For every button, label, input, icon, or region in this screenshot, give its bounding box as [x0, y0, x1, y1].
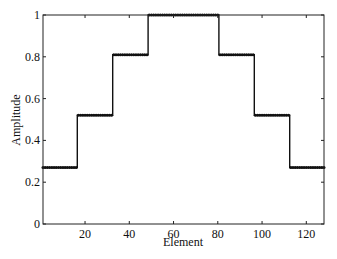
axes: 2040608010012000.20.40.60.81 [25, 8, 324, 241]
x-tick-label: 80 [212, 227, 224, 241]
y-tick-label: 0 [34, 217, 40, 231]
data-point-marker [287, 114, 290, 117]
x-tick-label: 40 [123, 227, 135, 241]
data-point-marker [110, 114, 113, 117]
y-tick-label: 1 [34, 8, 40, 22]
y-axis-label: Amplitude [9, 94, 23, 145]
y-tick-label: 0.8 [25, 50, 40, 64]
data-point-marker [75, 166, 78, 169]
plot-area [42, 14, 326, 170]
x-tick-label: 20 [79, 227, 91, 241]
plot-frame [43, 15, 324, 224]
data-point-marker [145, 53, 148, 56]
x-tick-label: 100 [253, 227, 271, 241]
data-point-marker [252, 53, 255, 56]
amplitude-step-line [43, 15, 324, 168]
y-tick-label: 0.2 [25, 175, 40, 189]
x-axis-label: Element [163, 235, 204, 249]
y-tick-label: 0.4 [25, 133, 40, 147]
amplitude-chart: 2040608010012000.20.40.60.81 Element Amp… [0, 0, 337, 259]
x-tick-label: 120 [297, 227, 315, 241]
y-tick-label: 0.6 [25, 92, 40, 106]
